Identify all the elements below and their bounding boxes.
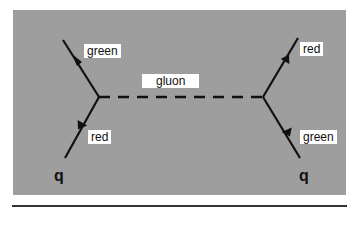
right-red-line [263,38,298,97]
label-right-bottom: green [300,130,337,144]
bottom-rule [12,205,347,207]
label-right-quark: q [299,168,309,184]
label-right-top: red [300,42,323,56]
label-left-quark: q [54,168,64,184]
arrow-icon [72,54,82,66]
label-left-top: green [84,44,121,58]
label-left-bottom: red [88,130,111,144]
label-gluon: gluon [142,74,199,88]
right-green-line [263,97,300,158]
